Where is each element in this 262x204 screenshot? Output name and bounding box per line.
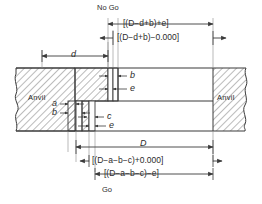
part-step-upper <box>75 68 108 101</box>
callout-e-bottom: e <box>109 121 114 130</box>
go-title: Go <box>102 186 112 194</box>
dim-go-lower-label: [(D−a−b−c)−e] <box>104 169 159 178</box>
anvil-right-label: Anvil <box>217 94 235 102</box>
dim-small-d-label: d <box>71 50 76 59</box>
gap-strips-top <box>108 68 118 101</box>
dim-big-D-label: D <box>140 139 147 148</box>
gauge-dimension-diagram: No Go [(D−d+b)+e] [(D−d+b)−0.000] d Anvi… <box>0 0 262 204</box>
callout-b-top: b <box>130 71 135 80</box>
no-go-title: No Go <box>97 4 119 12</box>
callout-e-top: e <box>130 84 135 93</box>
anvil-left-label: Anvil <box>28 94 46 102</box>
dim-no-go-lower-label: [(D−d+b)−0.000] <box>117 33 179 42</box>
callout-b-left: b <box>52 108 57 117</box>
dim-go-upper-label: [(D−a−b−c)+0.000] <box>92 156 163 165</box>
dim-no-go-upper-label: [(D−d+b)+e] <box>123 19 169 28</box>
part-step-lower <box>68 101 95 131</box>
